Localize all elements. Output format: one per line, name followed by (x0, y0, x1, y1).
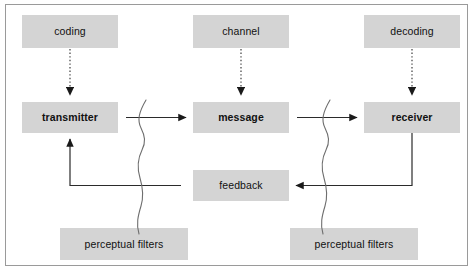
node-feedback: feedback (193, 170, 289, 201)
node-coding-label: coding (54, 26, 86, 37)
node-transmitter-label: transmitter (42, 112, 98, 123)
node-channel: channel (193, 15, 289, 48)
diagram-canvas: coding channel decoding transmitter mess… (0, 0, 475, 278)
node-perceptual-filters-right-label: perceptual filters (315, 239, 394, 250)
node-decoding-label: decoding (390, 26, 433, 37)
node-receiver: receiver (364, 102, 460, 133)
node-message-label: message (218, 112, 264, 123)
node-channel-label: channel (222, 26, 259, 37)
node-coding: coding (22, 15, 118, 48)
node-perceptual-filters-right: perceptual filters (290, 228, 418, 260)
node-perceptual-filters-left-label: perceptual filters (85, 239, 164, 250)
node-transmitter: transmitter (22, 102, 118, 133)
node-feedback-label: feedback (219, 180, 262, 191)
node-message: message (193, 102, 289, 133)
node-decoding: decoding (364, 15, 460, 48)
node-perceptual-filters-left: perceptual filters (60, 228, 188, 260)
node-receiver-label: receiver (391, 112, 432, 123)
